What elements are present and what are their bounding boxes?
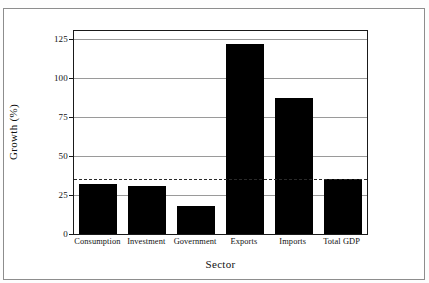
y-axis-title: Growth (%) [7, 104, 19, 160]
y-axis-tick-label: 25 [59, 190, 68, 200]
x-axis-title: Sector [73, 258, 368, 270]
page-background: 0255075100125 ConsumptionInvestmentGover… [0, 0, 429, 283]
y-axis-tick-label: 125 [54, 34, 68, 44]
bar [128, 186, 166, 234]
bar [79, 184, 117, 234]
y-axis-tick [69, 234, 74, 235]
x-axis-tick-label: Government [174, 237, 217, 246]
x-axis-tick-label: Total GDP [323, 237, 360, 246]
plot-area: 0255075100125 [73, 30, 368, 235]
x-axis-tick-labels: ConsumptionInvestmentGovernmentExportsIm… [73, 237, 368, 253]
bar [226, 44, 264, 235]
y-axis-tick-label: 50 [59, 151, 68, 161]
bar [177, 206, 215, 234]
x-axis-tick-label: Imports [279, 237, 306, 246]
y-axis-tick-label: 0 [63, 229, 68, 239]
bar [324, 179, 362, 234]
bar [275, 98, 313, 234]
x-axis-tick-label: Exports [231, 237, 258, 246]
reference-line [74, 179, 367, 180]
y-axis-tick-label: 75 [59, 112, 68, 122]
x-axis-tick-label: Investment [127, 237, 165, 246]
bar-chart-figure: 0255075100125 ConsumptionInvestmentGover… [0, 0, 429, 283]
bars-group [74, 31, 367, 234]
y-axis-tick-label: 100 [54, 73, 68, 83]
x-axis-tick-label: Consumption [74, 237, 120, 246]
